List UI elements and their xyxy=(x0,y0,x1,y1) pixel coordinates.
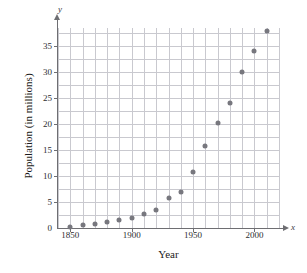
x-tick-mark xyxy=(193,228,194,232)
data-point xyxy=(178,189,183,194)
data-point xyxy=(264,28,269,33)
x-tick-mark xyxy=(254,228,255,232)
gridline-horizontal xyxy=(58,124,279,125)
data-point xyxy=(215,121,220,126)
gridline-horizontal xyxy=(58,163,279,164)
x-tick-label: 1950 xyxy=(173,231,213,240)
gridline-vertical xyxy=(205,28,206,228)
gridline-horizontal xyxy=(58,33,279,34)
data-point xyxy=(203,143,208,148)
data-point xyxy=(117,218,122,223)
data-point xyxy=(105,220,110,225)
gridline-horizontal xyxy=(58,150,279,151)
gridline-horizontal xyxy=(58,85,279,86)
gridline-vertical xyxy=(181,28,182,228)
gridline-vertical xyxy=(279,28,280,228)
scatter-plot-figure: y x 05101520253035 1850190019502000 Year… xyxy=(0,0,307,273)
gridline-horizontal xyxy=(58,46,279,47)
data-point xyxy=(129,216,134,221)
gridline-horizontal xyxy=(58,111,279,112)
x-axis-line xyxy=(57,228,286,229)
data-point xyxy=(80,223,85,228)
gridline-vertical xyxy=(193,28,194,228)
gridline-vertical xyxy=(254,28,255,228)
gridline-vertical xyxy=(83,28,84,228)
x-tick-mark xyxy=(132,228,133,232)
x-tick-label: 1850 xyxy=(50,231,90,240)
y-axis-arrow-icon xyxy=(54,14,60,20)
gridline-vertical xyxy=(95,28,96,228)
gridline-horizontal xyxy=(58,215,279,216)
x-tick-label: 2000 xyxy=(234,231,274,240)
x-axis-title: Year xyxy=(58,248,279,260)
x-tick-label: 1900 xyxy=(112,231,152,240)
data-point xyxy=(252,49,257,54)
y-tick-mark xyxy=(54,46,58,47)
gridline-horizontal xyxy=(58,137,279,138)
y-axis-variable-label: y xyxy=(58,4,62,14)
y-tick-mark xyxy=(54,150,58,151)
data-point xyxy=(166,195,171,200)
y-axis-title: Population (in millions) xyxy=(22,26,34,226)
data-point xyxy=(68,224,73,229)
x-axis-arrow-icon xyxy=(283,225,289,231)
data-point xyxy=(154,207,159,212)
data-point xyxy=(240,70,245,75)
data-point xyxy=(227,101,232,106)
y-tick-mark xyxy=(54,202,58,203)
gridline-horizontal xyxy=(58,202,279,203)
data-point xyxy=(141,212,146,217)
x-axis-variable-label: x xyxy=(291,222,295,232)
gridline-vertical xyxy=(132,28,133,228)
y-tick-mark xyxy=(54,72,58,73)
gridline-horizontal xyxy=(58,176,279,177)
gridline-vertical xyxy=(119,28,120,228)
gridline-vertical xyxy=(267,28,268,228)
gridline-horizontal xyxy=(58,59,279,60)
gridline-horizontal xyxy=(58,98,279,99)
gridline-vertical xyxy=(107,28,108,228)
gridline-vertical xyxy=(70,28,71,228)
y-tick-mark xyxy=(54,176,58,177)
gridline-vertical xyxy=(58,28,59,228)
y-tick-mark xyxy=(54,98,58,99)
data-point xyxy=(191,169,196,174)
y-tick-mark xyxy=(54,124,58,125)
gridline-horizontal xyxy=(58,72,279,73)
gridline-vertical xyxy=(156,28,157,228)
data-point xyxy=(92,221,97,226)
gridline-vertical xyxy=(144,28,145,228)
gridline-vertical xyxy=(230,28,231,228)
gridline-horizontal xyxy=(58,189,279,190)
gridline-vertical xyxy=(218,28,219,228)
gridline-vertical xyxy=(242,28,243,228)
